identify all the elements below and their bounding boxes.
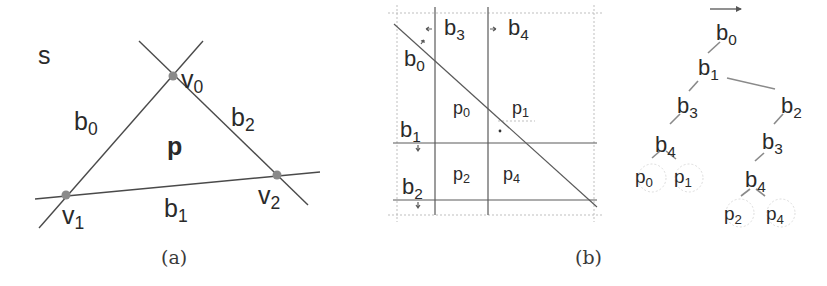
caption-a: (a) bbox=[161, 246, 187, 268]
tree-node-b4-left: b4 bbox=[655, 132, 676, 160]
split-label-b0: b0 bbox=[404, 46, 425, 74]
tree-edge-b1-b2 bbox=[727, 78, 775, 89]
split-label-b3: b3 bbox=[444, 15, 465, 43]
vertex-label-v1: v1 bbox=[62, 201, 84, 233]
tree-node-b1: b1 bbox=[698, 55, 719, 83]
edge-label-b0: b0 bbox=[74, 107, 98, 139]
tree-edge-b3-b4-right bbox=[755, 153, 764, 161]
tree-leaf-p1: p1 bbox=[674, 166, 692, 190]
split-label-b4: b4 bbox=[508, 15, 529, 43]
tree-node-b2: b2 bbox=[781, 93, 802, 121]
edge-label-b1: b1 bbox=[164, 194, 188, 226]
vertex-label-v2: v2 bbox=[258, 181, 280, 213]
edge-label-b2: b2 bbox=[231, 103, 255, 135]
arrow-b3-icon bbox=[426, 27, 432, 31]
vertex-v0-dot bbox=[169, 72, 178, 81]
figure: s p v0 v1 v2 b0 b1 b2 (a) b3 b4 b0 b1 bbox=[0, 0, 827, 286]
vertex-v1-dot bbox=[62, 191, 71, 200]
arrow-b0-icon bbox=[421, 40, 424, 44]
caption-b: (b) bbox=[575, 246, 602, 268]
region-label-s: s bbox=[38, 41, 51, 69]
tree-leaf-p0: p0 bbox=[635, 166, 653, 190]
tree-edge-b1-b3 bbox=[689, 81, 698, 91]
vertex-label-v0: v0 bbox=[181, 65, 204, 97]
split-label-b2: b2 bbox=[402, 174, 423, 202]
arrow-b2-icon bbox=[416, 202, 420, 208]
split-label-b1: b1 bbox=[400, 117, 421, 145]
bsp-tree: b0 b1 b3 b4 p0 p1 b2 b3 b4 p2 p4 bbox=[635, 6, 802, 227]
cell-label-p1: p1 bbox=[512, 98, 529, 120]
sample-point-dot bbox=[499, 130, 502, 133]
cell-label-p4: p4 bbox=[503, 164, 520, 186]
arrow-b1-icon bbox=[416, 145, 420, 151]
tree-leaf-p2: p2 bbox=[724, 203, 742, 227]
panel-b: b3 b4 b0 b1 b2 p0 p1 p2 p4 (b) bbox=[388, 5, 602, 268]
arrow-b4-icon bbox=[490, 27, 496, 31]
tree-leaf-p4: p4 bbox=[766, 203, 784, 227]
cell-label-p2: p2 bbox=[453, 164, 470, 186]
tree-node-b4-right: b4 bbox=[745, 167, 766, 195]
panel-a: s p v0 v1 v2 b0 b1 b2 (a) bbox=[35, 41, 320, 268]
cell-label-p0: p0 bbox=[453, 98, 470, 120]
tree-node-b0: b0 bbox=[716, 20, 737, 48]
tree-node-b3-right: b3 bbox=[762, 129, 783, 157]
root-arrow-head-icon bbox=[736, 6, 742, 12]
split-line-b0 bbox=[394, 24, 597, 207]
polygon-label-p: p bbox=[167, 132, 182, 160]
tree-node-b3-left: b3 bbox=[677, 93, 698, 121]
vertex-v2-dot bbox=[273, 171, 282, 180]
line-b2 bbox=[139, 41, 308, 205]
